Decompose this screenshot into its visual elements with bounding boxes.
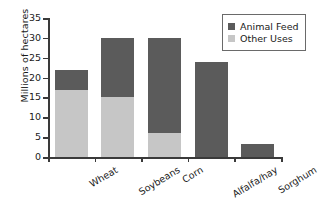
x-label-soybeans: Soybeans: [136, 164, 181, 197]
y-tick: [43, 97, 48, 99]
x-tick: [281, 157, 283, 162]
y-tick-label: 25: [29, 53, 41, 63]
bar-soybeans: [101, 38, 134, 157]
y-tick-label: 0: [35, 152, 41, 162]
stacked-bar-chart: Millions of hectares 05101520253035 Whea…: [0, 0, 334, 221]
y-tick: [43, 58, 48, 60]
x-axis-line: [48, 157, 281, 159]
legend-item-other-uses: Other Uses: [228, 33, 299, 44]
y-tick-label: 10: [29, 113, 41, 123]
x-label-wheat: Wheat: [88, 164, 120, 189]
legend-item-animal-feed: Animal Feed: [228, 21, 299, 32]
y-tick-label: 35: [29, 13, 41, 23]
bar-alfalfa-hay: [195, 62, 228, 157]
x-tick: [188, 157, 190, 162]
y-tick-label: 30: [29, 33, 41, 43]
x-tick: [141, 157, 143, 162]
x-tick: [95, 157, 97, 162]
legend-label-other-uses: Other Uses: [240, 33, 293, 44]
bar-segment-other-uses: [55, 90, 88, 158]
bar-sorghum: [241, 144, 274, 157]
bar-segment-animal-feed: [55, 70, 88, 90]
bar-wheat: [55, 70, 88, 157]
y-tick-label: 15: [29, 93, 41, 103]
x-tick: [48, 157, 50, 162]
bar-corn: [148, 38, 181, 157]
x-label-alfalfa-hay: Alfalfa/hay: [230, 164, 279, 200]
legend-swatch-icon-other-uses: [228, 35, 235, 42]
legend-label-animal-feed: Animal Feed: [240, 21, 299, 32]
chart-legend: Animal Feed Other Uses: [222, 14, 306, 51]
y-tick-label: 5: [35, 132, 41, 142]
y-tick: [43, 18, 48, 20]
bar-segment-other-uses: [148, 133, 181, 157]
bar-segment-animal-feed: [148, 38, 181, 133]
y-tick: [43, 137, 48, 139]
bar-segment-other-uses: [101, 97, 134, 157]
x-label-corn: Corn: [180, 164, 205, 185]
y-axis-title: Millions of hectares: [19, 0, 30, 126]
y-tick: [43, 117, 48, 119]
y-axis-line: [48, 18, 50, 157]
y-tick-label: 20: [29, 73, 41, 83]
bar-segment-animal-feed: [195, 62, 228, 157]
y-tick: [43, 38, 48, 40]
bar-segment-animal-feed: [101, 38, 134, 97]
x-label-sorghum: Sorghum: [276, 164, 318, 196]
x-tick: [234, 157, 236, 162]
legend-swatch-icon-animal-feed: [228, 23, 235, 30]
y-tick: [43, 78, 48, 80]
bar-segment-animal-feed: [241, 144, 274, 157]
